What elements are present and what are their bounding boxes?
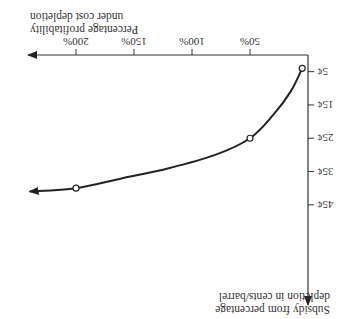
x-tick-label: 200% xyxy=(63,36,89,48)
data-point-marker xyxy=(247,135,253,141)
axis-labels: 50%100%150%200%5¢15¢25¢35¢45¢Percentage … xyxy=(30,10,334,316)
plot-area xyxy=(30,65,306,191)
x-tick-label: 100% xyxy=(179,36,205,48)
axes xyxy=(28,49,314,305)
x-tick-label: 150% xyxy=(121,36,147,48)
y-tick-label: 15¢ xyxy=(317,99,334,111)
data-point-marker xyxy=(299,65,305,71)
y-axis-label: depletion in cents/barrel xyxy=(219,290,330,303)
y-axis-label: Subsidy from percentage xyxy=(215,303,330,316)
x-axis-label: under cost depletion xyxy=(30,10,124,23)
data-point-marker xyxy=(73,185,79,191)
y-tick-label: 25¢ xyxy=(317,132,334,144)
y-tick-label: 35¢ xyxy=(317,166,334,178)
x-axis-label: Percentage profitability xyxy=(30,23,139,36)
subsidy-curve xyxy=(30,68,303,191)
y-tick-label: 5¢ xyxy=(317,66,328,78)
subsidy-chart: 50%100%150%200%5¢15¢25¢35¢45¢Percentage … xyxy=(0,0,350,319)
y-tick-label: 45¢ xyxy=(317,199,334,211)
x-tick-label: 50% xyxy=(240,36,260,48)
